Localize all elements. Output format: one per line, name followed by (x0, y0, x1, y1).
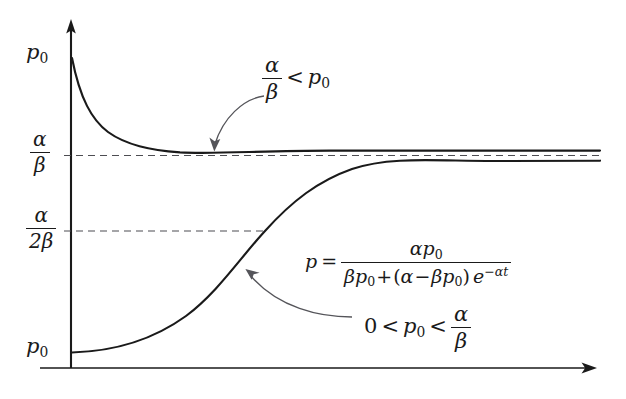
denominator-beta: β (344, 265, 355, 287)
decay-curve (72, 58, 600, 153)
p0-top-subscript: 0 (39, 50, 48, 66)
denominator-p2-base: p (442, 265, 454, 287)
alpha-over-beta-numerator: α (30, 129, 50, 152)
decay-annotation-relation: < (282, 65, 308, 89)
equation-equals-sign: = (317, 250, 341, 272)
numerator-alpha: α (410, 237, 423, 259)
logistic-annotation-relation-right: < (425, 314, 451, 338)
decay-annotation-rhs-subscript: 0 (321, 75, 330, 91)
alpha-over-2beta-fraction: α 2β (26, 205, 56, 252)
decay-annotation-rhs-base: p (308, 65, 321, 89)
denominator-exponent-alpha: α (495, 264, 503, 279)
equation-fraction: αp0 βp0+(α−βp0)e−αt (341, 238, 511, 289)
denominator-open-paren: ( (393, 265, 400, 287)
logistic-annotation-numerator: α (451, 303, 471, 327)
logistic-annotation-mid-subscript: 0 (416, 324, 425, 340)
p0-bottom-subscript: 0 (39, 344, 48, 360)
alpha-over-beta-fraction: α β (30, 129, 50, 176)
logistic-curve-annotation-label: 0<p0< α β (364, 303, 471, 352)
p0-top-base: p (26, 40, 39, 64)
equation-denominator: βp0+(α−βp0)e−αt (341, 263, 511, 289)
y-axis-label-alpha-over-beta: α β (30, 129, 50, 176)
equation-lhs: p (305, 250, 317, 272)
denominator-minus: − (413, 265, 431, 287)
decay-annotation-numerator: α (262, 54, 282, 78)
y-axis-label-p0-top: p0 (26, 42, 48, 66)
denominator-exponential-base: e (470, 265, 484, 287)
alpha-over-2beta-numerator: α (26, 205, 56, 228)
p0-bottom-base: p (26, 334, 39, 358)
denominator-exponent-minus: − (484, 264, 495, 279)
logistic-annotation-relation-left: < (377, 314, 403, 338)
denominator-exponent-t: t (503, 264, 508, 279)
solution-equation: p= αp0 βp0+(α−βp0)e−αt (305, 238, 511, 289)
decay-annotation-fraction: α β (262, 54, 282, 103)
decay-annotation-arrow (215, 96, 264, 144)
denominator-plus: + (375, 265, 393, 287)
alpha-over-2beta-denominator: 2β (26, 229, 56, 253)
reference-lines-group (64, 156, 600, 232)
y-axis-label-alpha-over-2beta: α 2β (26, 205, 56, 252)
logistic-annotation-mid-base: p (403, 314, 416, 338)
decay-annotation-denominator: β (262, 79, 282, 104)
numerator-p-base: p (422, 237, 434, 259)
equation-numerator: αp0 (341, 238, 511, 262)
logistic-curves-figure: p0 p0 α β α 2β α β <p0 0<p0< α β (0, 0, 626, 399)
denominator-beta-2: β (431, 265, 442, 287)
alpha-over-beta-denominator: β (30, 153, 50, 177)
numerator-p-subscript: 0 (435, 247, 443, 262)
logistic-annotation-fraction: α β (451, 303, 471, 352)
y-axis-label-p0-bottom: p0 (26, 336, 48, 360)
denominator-p-base: p (355, 265, 367, 287)
logistic-annotation-lhs: 0 (364, 314, 377, 338)
denominator-close-paren: ) (462, 265, 469, 287)
logistic-annotation-denominator: β (451, 328, 471, 353)
decay-curve-annotation-label: α β <p0 (262, 54, 330, 103)
denominator-alpha: α (401, 265, 414, 287)
decay-annotation-arrowhead (209, 138, 220, 152)
